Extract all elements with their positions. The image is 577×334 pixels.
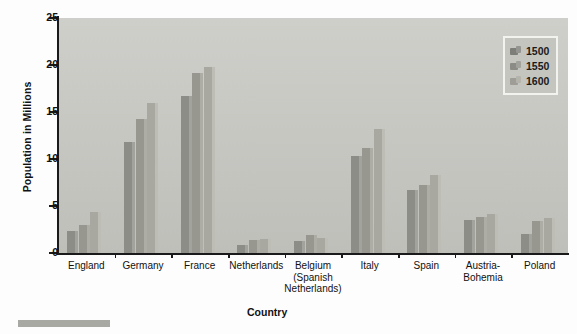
bar-netherlands-1500 <box>237 245 248 253</box>
bar-france-1550 <box>192 73 203 253</box>
bar-spain-1600 <box>430 175 441 253</box>
x-axis-line <box>57 253 569 255</box>
legend-swatch-1550-icon <box>510 61 521 70</box>
x-axis-tick <box>455 253 457 258</box>
y-axis-line <box>57 16 59 255</box>
x-axis-title: Country <box>247 306 287 318</box>
x-axis-tick <box>228 253 230 258</box>
bar-poland-1600 <box>544 218 555 253</box>
bar-austria-bohemia-1500 <box>464 220 475 253</box>
legend-label-1600: 1600 <box>526 75 549 87</box>
x-axis-tick <box>341 253 343 258</box>
bar-belgium-spanish-netherlands-1550 <box>306 235 317 253</box>
page-footer-rule <box>18 320 110 327</box>
bar-austria-bohemia-1600 <box>487 214 498 253</box>
chart-legend: 1500 1550 1600 <box>503 36 558 95</box>
bar-germany-1600 <box>147 103 158 253</box>
y-axis-tick-label: 15 <box>14 105 58 117</box>
legend-swatch-1600-icon <box>510 76 521 85</box>
x-axis-tick <box>285 253 287 258</box>
bar-belgium-spanish-netherlands-1500 <box>294 241 305 253</box>
legend-label-1550: 1550 <box>526 60 549 72</box>
x-axis-label-poland: Poland <box>503 260 576 272</box>
bar-france-1600 <box>204 67 215 253</box>
bar-spain-1550 <box>419 185 430 253</box>
population-bar-chart: Population in Millions 0510152025 Englan… <box>0 0 577 334</box>
bar-poland-1550 <box>532 221 543 253</box>
bar-germany-1500 <box>124 142 135 253</box>
legend-item: 1550 <box>510 58 549 73</box>
bar-italy-1550 <box>362 148 373 253</box>
legend-label-1500: 1500 <box>526 45 549 57</box>
bar-poland-1500 <box>521 234 532 253</box>
bar-belgium-spanish-netherlands-1600 <box>317 238 328 253</box>
bar-germany-1550 <box>136 119 147 253</box>
legend-swatch-1500-icon <box>510 46 521 55</box>
legend-item: 1600 <box>510 73 549 88</box>
x-axis-tick <box>171 253 173 258</box>
bar-netherlands-1550 <box>249 240 260 253</box>
x-axis-tick <box>511 253 513 258</box>
legend-item: 1500 <box>510 43 549 58</box>
bar-france-1500 <box>181 96 192 253</box>
x-axis-tick <box>115 253 117 258</box>
bar-spain-1500 <box>407 190 418 253</box>
bar-netherlands-1600 <box>260 239 271 253</box>
bar-england-1600 <box>90 212 101 253</box>
bar-austria-bohemia-1550 <box>476 217 487 253</box>
bar-italy-1600 <box>374 129 385 253</box>
y-axis-tick-label: 0 <box>14 246 58 258</box>
bar-england-1550 <box>79 225 90 253</box>
y-axis-tick-label: 10 <box>14 152 58 164</box>
y-axis-tick-label: 5 <box>14 199 58 211</box>
bar-england-1500 <box>67 231 78 253</box>
y-axis-tick-label: 20 <box>14 58 58 70</box>
bar-italy-1500 <box>351 156 362 253</box>
y-axis-tick-label: 25 <box>14 11 58 23</box>
x-axis-tick <box>398 253 400 258</box>
